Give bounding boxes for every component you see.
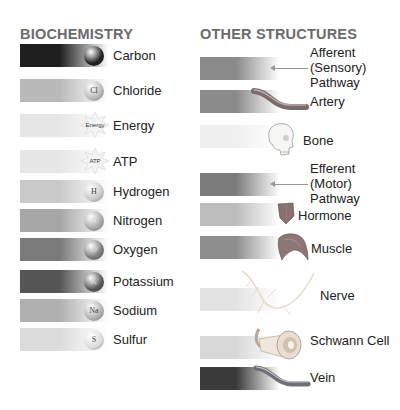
legend-label: Afferent(Sensory)Pathway: [310, 45, 366, 90]
biochemistry-heading: BIOCHEMISTRY: [20, 26, 133, 42]
carbon-ball-icon: [84, 46, 104, 66]
label-line: Afferent: [310, 45, 366, 60]
legend-label: Hydrogen: [113, 184, 169, 199]
legend-label: Sodium: [113, 303, 157, 318]
label-line: Pathway: [310, 75, 366, 90]
label-line: Pathway: [310, 191, 360, 206]
legend-label: Oxygen: [113, 242, 158, 257]
color-swatch: [200, 236, 280, 259]
nerve-icon: [238, 267, 318, 323]
legend-label: Hormone: [298, 208, 351, 223]
label-line: Efferent: [310, 161, 360, 176]
energy-starburst-icon: Energy: [80, 111, 110, 139]
legend-label: Muscle: [311, 241, 352, 256]
artery-tube-icon: [250, 87, 312, 117]
arrow-left-icon: [274, 184, 308, 185]
color-swatch: [200, 57, 280, 80]
legend-label: Efferent(Motor)Pathway: [310, 161, 360, 206]
label-line: Vein: [310, 370, 335, 385]
potassium-ball-icon: K: [84, 272, 104, 292]
label-line: Bone: [303, 133, 333, 148]
legend-label: Bone: [303, 133, 333, 148]
label-line: Nerve: [320, 288, 355, 303]
legend-label: Nitrogen: [113, 213, 162, 228]
chloride-ball-icon: Cl: [84, 81, 104, 101]
legend-label: Potassium: [113, 274, 174, 289]
legend-label: Vein: [310, 370, 335, 385]
color-swatch: [200, 173, 280, 196]
vein-tube-icon: [252, 364, 314, 394]
legend-label: ATP: [113, 154, 137, 169]
label-line: Hormone: [298, 208, 351, 223]
oxygen-ball-icon: O: [84, 240, 104, 260]
atp-starburst-icon: ATP: [80, 147, 110, 175]
legend-label: Carbon: [113, 48, 156, 63]
sulfur-ball-icon: S: [84, 330, 104, 350]
label-line: (Motor): [310, 176, 360, 191]
label-line: Schwann Cell: [310, 333, 390, 348]
hydrogen-ball-icon: H: [84, 182, 104, 202]
schwann-cell-icon: [253, 325, 309, 369]
symbol-text: Energy: [85, 122, 104, 128]
muscle-icon: [276, 232, 310, 268]
symbol-text: ATP: [89, 158, 100, 164]
skull-icon: [263, 121, 297, 163]
legend-label: Sulfur: [113, 332, 147, 347]
label-line: (Sensory): [310, 60, 366, 75]
other-structures-heading: OTHER STRUCTURES: [200, 26, 357, 42]
color-swatch: [200, 203, 280, 226]
nitrogen-ball-icon: N: [84, 211, 104, 231]
legend-label: Energy: [113, 118, 154, 133]
legend-label: Schwann Cell: [310, 333, 390, 348]
legend-label: Chloride: [113, 83, 161, 98]
hormone-gland-icon: [276, 202, 296, 230]
label-line: Artery: [310, 94, 345, 109]
arrow-left-icon: [274, 68, 308, 69]
sodium-ball-icon: Na: [84, 301, 104, 321]
legend-label: Artery: [310, 94, 345, 109]
legend-label: Nerve: [320, 288, 355, 303]
label-line: Muscle: [311, 241, 352, 256]
